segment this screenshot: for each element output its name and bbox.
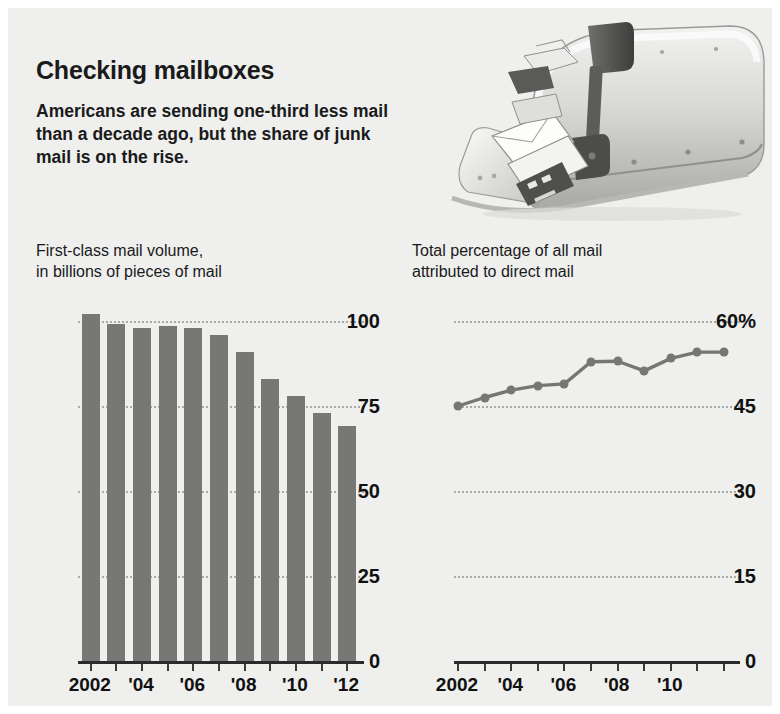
x-axis-tick (192, 664, 194, 671)
data-point-marker (533, 381, 542, 390)
bar (313, 413, 331, 661)
bar (133, 328, 151, 661)
data-point-marker (640, 366, 649, 375)
bar (159, 326, 177, 661)
data-point-marker (480, 393, 489, 402)
x-axis-label: '08 (231, 674, 257, 696)
line-chart-direct-mail-share: 015304560%2002'04'06'08'10 (406, 308, 756, 680)
x-axis-tick (295, 664, 297, 671)
x-axis-tick (167, 664, 169, 671)
data-point-marker (720, 348, 729, 357)
right-caption-line1: Total percentage of all mail (412, 240, 742, 261)
x-axis-tick (269, 664, 271, 671)
subtitle-text: Americans are sending one-third less mai… (36, 100, 408, 169)
data-point-marker (454, 402, 463, 411)
data-point-marker (666, 354, 675, 363)
x-axis-tick (141, 664, 143, 671)
left-caption-line2: in billions of pieces of mail (36, 261, 366, 282)
x-axis-label: 2002 (69, 674, 111, 696)
bar (338, 426, 356, 661)
bar-chart-first-class-mail-volume: 02550751002002'04'06'08'10'12 (30, 308, 380, 680)
y-axis-label: 75 (340, 395, 380, 418)
data-point-marker (560, 379, 569, 388)
left-chart-caption: First-class mail volume, in billions of … (36, 240, 366, 282)
bar (261, 379, 279, 661)
x-axis-tick (115, 664, 117, 671)
y-axis-label: 100 (340, 310, 380, 333)
x-axis-label: '06 (180, 674, 206, 696)
line-series-path (406, 308, 756, 680)
x-axis-label: '10 (282, 674, 308, 696)
mailbox-photo (412, 16, 770, 221)
data-point-marker (507, 386, 516, 395)
bar (210, 335, 228, 661)
x-axis-tick (218, 664, 220, 671)
data-point-marker (613, 357, 622, 366)
x-axis-tick (90, 664, 92, 671)
bar (107, 324, 125, 661)
data-point-marker (693, 348, 702, 357)
page-title: Checking mailboxes (36, 56, 436, 85)
left-caption-line1: First-class mail volume, (36, 240, 366, 261)
x-axis-label: '12 (333, 674, 359, 696)
data-point-marker (587, 357, 596, 366)
right-caption-line2: attributed to direct mail (412, 261, 742, 282)
infographic-panel: Checking mailboxes Americans are sending… (8, 8, 772, 706)
x-axis-tick (321, 664, 323, 671)
bar (287, 396, 305, 661)
x-axis-tick (346, 664, 348, 671)
bar (82, 314, 100, 661)
gridline (78, 321, 364, 323)
bar (236, 352, 254, 661)
x-axis-tick (244, 664, 246, 671)
right-chart-caption: Total percentage of all mail attributed … (412, 240, 742, 282)
x-axis-label: '04 (128, 674, 154, 696)
bar (184, 328, 202, 661)
